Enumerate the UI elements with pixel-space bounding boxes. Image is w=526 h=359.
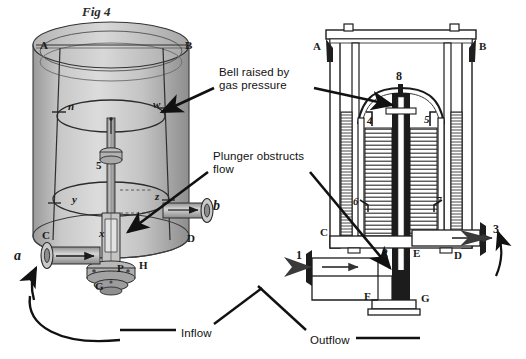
bell-skirt-left xyxy=(358,118,364,236)
left-label-y: y xyxy=(72,193,77,205)
leader-outflow-up xyxy=(258,286,306,330)
right-label-A: A xyxy=(313,40,321,52)
right-label-G: G xyxy=(421,292,430,304)
annotation-inflow: Inflow xyxy=(181,327,212,340)
right-label-B: B xyxy=(479,40,486,52)
right-label-2: 2 xyxy=(382,246,388,261)
base-plate-fg xyxy=(372,300,416,309)
guide-lug-right xyxy=(430,112,436,126)
gland-bolt-center xyxy=(109,280,112,283)
annulus-right xyxy=(451,112,462,236)
right-label-4: 4 xyxy=(367,114,373,126)
diagram-canvas: Fig 4 Bell raised by gas pressure Plunge… xyxy=(0,0,526,359)
outer-wall-left xyxy=(330,36,340,248)
left-label-H: H xyxy=(139,259,148,271)
foot-left xyxy=(348,248,360,253)
right-section-figure xyxy=(284,24,502,315)
left-label-b: b xyxy=(213,198,220,214)
liquid-seal-right xyxy=(410,128,437,236)
section-stem-left xyxy=(392,97,398,287)
right-label-3: 3 xyxy=(493,222,499,237)
left-label-n: n xyxy=(68,100,74,112)
figure-artwork xyxy=(0,0,526,359)
gland-bolt-right xyxy=(126,269,130,273)
gland-bolt-left xyxy=(92,269,96,273)
liquid-seal-left xyxy=(365,128,392,236)
left-label-G: G xyxy=(95,280,104,292)
right-label-5: 5 xyxy=(424,113,430,125)
left-label-D: D xyxy=(187,232,195,244)
bell-apex-knob xyxy=(109,117,112,120)
right-label-7: 7 xyxy=(436,194,442,206)
inner-wall-right xyxy=(444,43,451,248)
recirculation-curve-left xyxy=(30,296,120,341)
right-label-6: 6 xyxy=(353,195,359,207)
left-label-P: P xyxy=(117,262,124,274)
annotation-outflow: Outflow xyxy=(310,334,350,347)
inlet-bore-a xyxy=(44,249,49,263)
bell-apex-stub xyxy=(398,84,403,94)
stem-collar-bottom xyxy=(100,156,122,164)
outer-wall-right xyxy=(462,36,472,248)
left-label-5: 5 xyxy=(96,159,102,171)
left-perspective-figure xyxy=(33,22,213,295)
annotation-plunger-obstructs: Plunger obstructs flow xyxy=(213,150,304,176)
foot-right xyxy=(440,248,452,253)
right-label-D: D xyxy=(454,249,462,261)
left-label-a: a xyxy=(14,248,21,264)
right-label-C: C xyxy=(320,226,328,238)
cover-stud-left xyxy=(344,24,353,31)
right-label-F: F xyxy=(364,290,371,302)
bell-skirt-right xyxy=(438,118,444,236)
right-label-8: 8 xyxy=(396,69,402,84)
section-stem-collar xyxy=(386,108,416,114)
leader-inflow-up xyxy=(214,288,262,324)
figure-title: Fig 4 xyxy=(82,4,111,20)
section-stem-right xyxy=(404,97,410,287)
left-label-x: x xyxy=(99,227,105,239)
recirculation-arrow-left xyxy=(32,268,36,300)
left-label-A: A xyxy=(40,39,48,51)
left-label-w: w xyxy=(153,98,160,110)
outlet-bore-b xyxy=(204,204,209,217)
section-stem-bore xyxy=(398,97,404,287)
cover-stud-right xyxy=(450,24,459,31)
left-label-B: B xyxy=(185,39,192,51)
base-plinth-fg xyxy=(368,309,420,315)
right-label-E: E xyxy=(413,247,420,259)
right-label-1: 1 xyxy=(296,248,302,263)
recirculation-arrow-right xyxy=(496,232,502,276)
annotation-bell-raised: Bell raised by gas pressure xyxy=(219,66,289,92)
left-label-z: z xyxy=(155,190,159,202)
left-label-C: C xyxy=(42,229,50,241)
